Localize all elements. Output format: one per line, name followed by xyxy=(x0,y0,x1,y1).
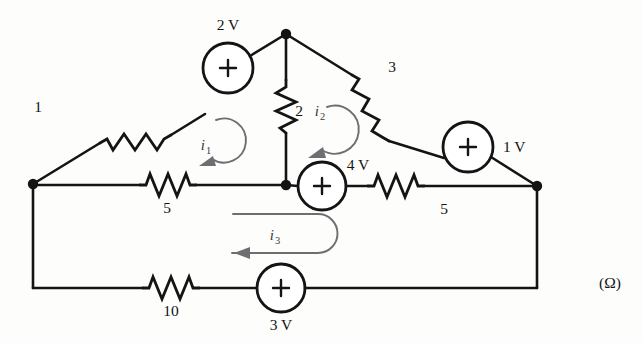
i2-subscript: 2 xyxy=(320,111,325,122)
node-dot-center xyxy=(281,180,291,190)
resistor-3-ohm xyxy=(352,75,389,141)
label-resistor-1-ohm: 1 xyxy=(34,98,42,115)
resistor-2-ohm xyxy=(276,80,296,133)
label-units-ohm: (Ω) xyxy=(599,274,621,292)
i3-symbol: i xyxy=(270,227,274,243)
label-mesh-current-i3: i3 xyxy=(270,227,280,246)
mesh-current-i3-arrow xyxy=(232,214,338,259)
i2-symbol: i xyxy=(315,103,319,119)
label-source-4v: 4 V xyxy=(347,156,370,173)
wire-topnode-to-r3 xyxy=(286,34,352,75)
arrowhead-i2 xyxy=(308,147,326,158)
label-source-2v: 2 V xyxy=(217,16,240,33)
branch-bottom xyxy=(33,184,537,312)
wire-r1-to-v2 xyxy=(171,114,205,135)
source-4v xyxy=(298,162,346,210)
mesh-current-i1-arrow xyxy=(199,119,246,166)
resistor-5-ohm-left xyxy=(140,174,196,196)
i1-symbol: i xyxy=(201,137,205,153)
label-mesh-current-i1: i1 xyxy=(201,137,211,156)
label-source-1v: 1 V xyxy=(503,138,526,155)
label-resistor-5-ohm-left: 5 xyxy=(163,199,171,216)
resistor-5-ohm-right xyxy=(368,175,424,197)
arrowhead-i3 xyxy=(234,247,250,259)
label-resistor-10-ohm: 10 xyxy=(163,302,179,319)
wire-r3-to-v1 xyxy=(389,141,444,158)
branch-middle-left xyxy=(33,174,286,196)
label-source-3v: 3 V xyxy=(270,316,293,333)
source-2v xyxy=(203,43,253,93)
branch-middle-vertical xyxy=(276,34,296,185)
source-3v xyxy=(257,264,305,312)
i1-subscript: 1 xyxy=(206,145,211,156)
resistor-1-ohm xyxy=(100,134,171,150)
arrowhead-i1 xyxy=(199,156,216,166)
node-dot-right xyxy=(532,181,542,191)
wire-leftnode-to-r1 xyxy=(33,143,100,184)
wire-v2-to-topnode xyxy=(250,34,286,56)
source-1v xyxy=(443,122,493,172)
label-resistor-5-ohm-right: 5 xyxy=(440,200,448,217)
label-mesh-current-i2: i2 xyxy=(315,103,325,122)
i3-subscript: 3 xyxy=(275,235,280,246)
wire-v1-to-rightnode xyxy=(491,157,537,186)
node-dot-top xyxy=(281,29,291,39)
circuit-canvas: 2 V 1 V 4 V 3 V 1 2 3 5 5 10 i1 i2 i3 (Ω… xyxy=(0,0,643,343)
node-dot-left xyxy=(28,179,38,189)
label-resistor-2-ohm: 2 xyxy=(295,102,303,119)
resistor-10-ohm xyxy=(143,277,199,299)
circuit-diagram: 2 V 1 V 4 V 3 V 1 2 3 5 5 10 i1 i2 i3 (Ω… xyxy=(0,0,643,343)
branch-upper-left xyxy=(33,34,286,184)
label-resistor-3-ohm: 3 xyxy=(388,58,396,75)
branch-middle-right xyxy=(286,162,537,210)
